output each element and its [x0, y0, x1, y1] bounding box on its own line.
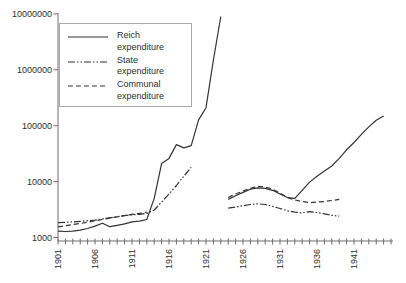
x-axis-label: 1916: [164, 249, 174, 269]
x-axis-label: 1931: [275, 249, 285, 269]
y-axis-label: 1000000: [17, 65, 52, 75]
series-line-communal-expenditure: [58, 212, 147, 227]
legend-item-label: Reich expenditure: [117, 30, 187, 53]
series-line-communal-expenditure: [228, 186, 339, 202]
legend-item-label: Communal expenditure: [117, 79, 187, 102]
x-axis-label: 1911: [127, 249, 137, 268]
y-axis-label: 10000: [27, 177, 52, 187]
x-axis-label: 1941: [349, 249, 359, 269]
y-axis-label: 10000000: [12, 9, 52, 19]
y-axis-label: 1000: [32, 233, 52, 243]
x-axis-label: 1906: [90, 249, 100, 269]
solid-line-icon: [67, 33, 109, 41]
series-line-reich-expenditure: [228, 116, 383, 199]
x-axis-label: 1901: [53, 249, 63, 269]
x-axis-label: 1936: [312, 249, 322, 269]
series-line-state-expenditure: [58, 167, 191, 222]
legend-item: Communal expenditure: [67, 79, 187, 102]
dash-dot-dot-line-icon: [67, 58, 109, 66]
series-line-state-expenditure: [228, 204, 339, 216]
legend-item-label: State expenditure: [117, 55, 187, 78]
y-axis-label: 100000: [22, 121, 52, 131]
legend-item: State expenditure: [67, 55, 187, 78]
dashed-line-icon: [67, 82, 109, 90]
x-axis-label: 1926: [238, 249, 248, 269]
legend-item: Reich expenditure: [67, 30, 187, 53]
expenditure-chart-figure: 1901190619111916192119261931193619411000…: [0, 0, 406, 283]
legend: Reich expenditure State expenditure Comm…: [59, 23, 192, 107]
x-axis-label: 1921: [201, 249, 211, 269]
